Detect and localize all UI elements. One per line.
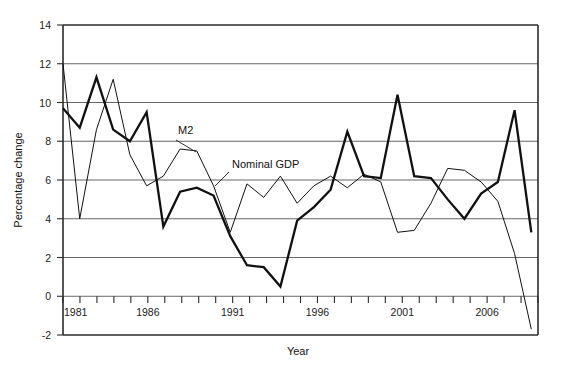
x-tick-label-2001: 2001 bbox=[391, 306, 415, 318]
gdp-leader-line bbox=[215, 172, 229, 186]
series-annotation-m2: M2 bbox=[178, 124, 193, 136]
series-line-m2 bbox=[63, 77, 531, 286]
y-axis-title: Percentage change bbox=[12, 132, 24, 227]
x-tick-marks bbox=[63, 296, 538, 303]
x-tick-label-1986: 1986 bbox=[136, 306, 160, 318]
y-tick-label-8: 8 bbox=[45, 135, 51, 147]
y-tick-label-10: 10 bbox=[39, 97, 51, 109]
series-line-nominal-gdp bbox=[63, 64, 531, 329]
y-tick-label-6: 6 bbox=[45, 174, 51, 186]
y-tick-label-0: 0 bbox=[45, 290, 51, 302]
x-axis-title: Year bbox=[287, 345, 310, 357]
line-chart: 14 12 10 8 6 4 2 0 -2 bbox=[0, 0, 562, 371]
gridlines bbox=[63, 64, 538, 297]
y-tick-marks bbox=[57, 25, 63, 335]
y-tick-label-4: 4 bbox=[45, 213, 51, 225]
y-tick-label-12: 12 bbox=[39, 58, 51, 70]
x-tick-labels: 1981 1986 1991 1996 2001 2006 bbox=[64, 306, 499, 318]
x-tick-label-2006: 2006 bbox=[475, 306, 499, 318]
x-tick-label-1981: 1981 bbox=[64, 306, 88, 318]
chart-page: 14 12 10 8 6 4 2 0 -2 bbox=[0, 0, 562, 371]
y-tick-label-14: 14 bbox=[39, 19, 51, 31]
series-annotation-nominal-gdp: Nominal GDP bbox=[232, 158, 299, 170]
y-tick-labels: 14 12 10 8 6 4 2 0 -2 bbox=[39, 19, 51, 341]
x-tick-label-1991: 1991 bbox=[221, 306, 245, 318]
x-tick-label-1996: 1996 bbox=[306, 306, 330, 318]
y-tick-label-2: 2 bbox=[45, 252, 51, 264]
y-tick-label-neg2: -2 bbox=[42, 329, 51, 341]
